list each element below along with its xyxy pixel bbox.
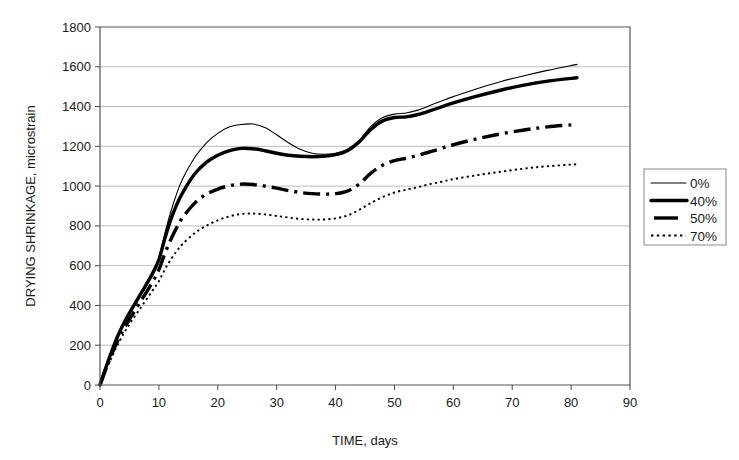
y-tick-label-800: 800 bbox=[69, 218, 91, 233]
y-tick-label-1600: 1600 bbox=[62, 59, 91, 74]
x-tick-label-70: 70 bbox=[505, 395, 519, 410]
plot-area bbox=[100, 27, 630, 385]
legend-label-0pct: 0% bbox=[690, 176, 710, 191]
y-axis-title: DRYING SHRINKAGE, microstrain bbox=[23, 105, 38, 306]
x-tick-label-80: 80 bbox=[564, 395, 578, 410]
x-axis-title: TIME, days bbox=[332, 433, 398, 448]
y-tick-label-1000: 1000 bbox=[62, 179, 91, 194]
legend: 0%40%50%70% bbox=[644, 169, 726, 245]
legend-label-50pct: 50% bbox=[690, 211, 717, 226]
legend-label-40pct: 40% bbox=[690, 194, 717, 209]
drying-shrinkage-line-chart: 020040060080010001200140016001800 010203… bbox=[0, 0, 739, 460]
y-tick-label-200: 200 bbox=[69, 338, 91, 353]
y-tick-label-1200: 1200 bbox=[62, 139, 91, 154]
x-tick-label-40: 40 bbox=[328, 395, 342, 410]
x-tick-label-60: 60 bbox=[446, 395, 460, 410]
x-tick-label-50: 50 bbox=[387, 395, 401, 410]
y-tick-label-400: 400 bbox=[69, 298, 91, 313]
chart-figure: 020040060080010001200140016001800 010203… bbox=[0, 0, 739, 460]
y-tick-label-1400: 1400 bbox=[62, 99, 91, 114]
legend-label-70pct: 70% bbox=[690, 229, 717, 244]
x-tick-label-0: 0 bbox=[96, 395, 103, 410]
x-tick-label-30: 30 bbox=[269, 395, 283, 410]
x-tick-label-90: 90 bbox=[623, 395, 637, 410]
y-tick-label-600: 600 bbox=[69, 258, 91, 273]
y-tick-label-1800: 1800 bbox=[62, 20, 91, 35]
x-tick-label-20: 20 bbox=[211, 395, 225, 410]
y-tick-label-0: 0 bbox=[84, 378, 91, 393]
x-tick-label-10: 10 bbox=[152, 395, 166, 410]
